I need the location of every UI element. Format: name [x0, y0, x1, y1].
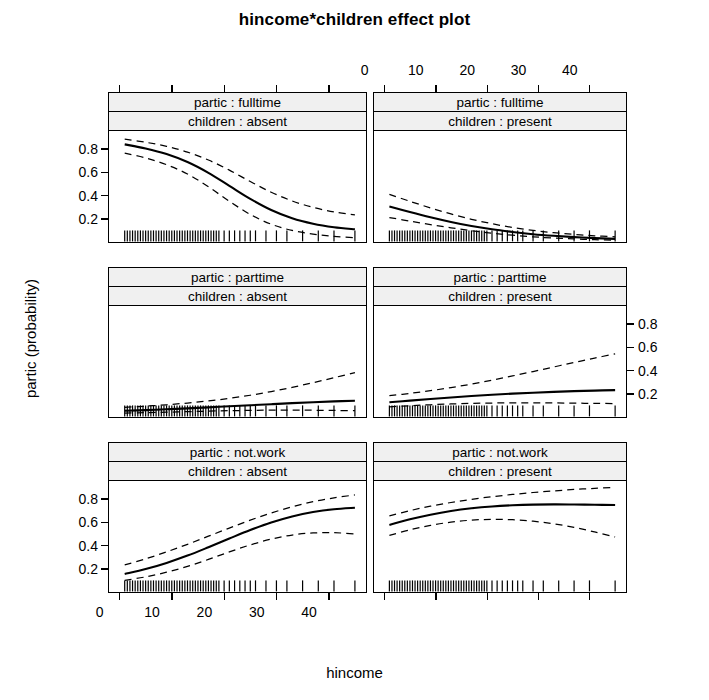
- fitted-curve: [389, 391, 615, 403]
- x-axis-tick: [538, 593, 539, 600]
- x-axis-tick-label: 30: [237, 604, 277, 620]
- x-axis-tick: [171, 593, 172, 600]
- confidence-upper: [125, 495, 355, 565]
- panel-strip-top: partic : fulltime: [108, 92, 367, 113]
- y-axis-tick: [101, 218, 108, 219]
- x-axis-tick: [119, 85, 120, 92]
- panel-strip-bottom: children : absent: [108, 111, 367, 132]
- x-axis-tick: [589, 85, 590, 92]
- rug-marks: [125, 231, 355, 242]
- plot-title: hincome*children effect plot: [0, 10, 709, 30]
- confidence-upper: [389, 354, 615, 396]
- x-axis-tick-label: 10: [132, 604, 172, 620]
- x-axis-tick: [119, 593, 120, 600]
- x-axis-tick: [171, 85, 172, 92]
- x-axis-tick: [276, 593, 277, 600]
- x-axis-tick: [224, 593, 225, 600]
- fitted-curve: [125, 145, 355, 230]
- y-axis-tick-label: 0.2: [60, 561, 98, 577]
- panel-fulltime-present: [373, 130, 627, 243]
- confidence-lower: [389, 520, 615, 538]
- x-axis-tick-label: 20: [184, 604, 224, 620]
- y-axis-tick-label: 0.8: [60, 491, 98, 507]
- panel-strip-top: partic : not.work: [373, 442, 627, 463]
- x-axis-tick: [589, 593, 590, 600]
- panel-strip-top: partic : parttime: [108, 267, 367, 288]
- y-axis-tick-label: 0.6: [60, 164, 98, 180]
- y-axis-tick-label: 0.2: [638, 386, 678, 402]
- x-axis-tick-label: 40: [550, 62, 590, 78]
- x-axis-tick: [328, 593, 329, 600]
- fitted-curve: [389, 505, 615, 526]
- x-axis-tick: [487, 593, 488, 600]
- panel-strip-bottom: children : present: [373, 461, 627, 482]
- y-axis-tick-label: 0.6: [60, 514, 98, 530]
- x-axis-tick-label: 10: [396, 62, 436, 78]
- x-axis-tick: [435, 85, 436, 92]
- panel-strip-top: partic : parttime: [373, 267, 627, 288]
- x-axis-tick: [384, 85, 385, 92]
- panel-strip-bottom: children : present: [373, 286, 627, 307]
- rug-marks: [389, 406, 615, 417]
- panel-strip-bottom: children : present: [373, 111, 627, 132]
- panel-strip-bottom: children : absent: [108, 461, 367, 482]
- y-axis-tick-label: 0.8: [638, 316, 678, 332]
- panel-strip-top: partic : fulltime: [373, 92, 627, 113]
- y-axis-tick: [101, 522, 108, 523]
- panel-parttime-absent: [108, 305, 367, 418]
- y-axis-label: partic (probability): [22, 239, 39, 439]
- effect-plot-canvas: hincome*children effect plot hincome par…: [0, 0, 709, 700]
- x-axis-tick: [538, 85, 539, 92]
- panel-parttime-present: [373, 305, 627, 418]
- x-axis-tick: [224, 85, 225, 92]
- rug-marks: [125, 581, 355, 592]
- y-axis-tick: [101, 568, 108, 569]
- y-axis-tick-label: 0.4: [60, 538, 98, 554]
- x-axis-tick: [276, 85, 277, 92]
- panel-notwork-present: [373, 480, 627, 593]
- confidence-lower: [125, 533, 355, 581]
- x-axis-tick-label: 40: [289, 604, 329, 620]
- y-axis-tick: [627, 347, 634, 348]
- panel-strip-bottom: children : absent: [108, 286, 367, 307]
- x-axis-tick: [435, 593, 436, 600]
- x-axis-tick: [384, 593, 385, 600]
- y-axis-tick: [101, 148, 108, 149]
- x-axis-tick: [487, 85, 488, 92]
- confidence-upper: [389, 488, 615, 517]
- y-axis-tick-label: 0.4: [60, 188, 98, 204]
- y-axis-tick-label: 0.8: [60, 141, 98, 157]
- confidence-upper: [125, 140, 355, 216]
- y-axis-tick-label: 0.4: [638, 363, 678, 379]
- y-axis-tick-label: 0.6: [638, 339, 678, 355]
- y-axis-tick-label: 0.2: [60, 211, 98, 227]
- fitted-curve: [125, 508, 355, 574]
- x-axis-tick: [328, 85, 329, 92]
- y-axis-tick: [627, 370, 634, 371]
- x-axis-tick-label: 0: [80, 604, 120, 620]
- panel-strip-top: partic : not.work: [108, 442, 367, 463]
- y-axis-tick: [627, 323, 634, 324]
- rug-marks: [389, 581, 615, 592]
- y-axis-tick: [101, 498, 108, 499]
- x-axis-tick-label: 20: [447, 62, 487, 78]
- panel-fulltime-absent: [108, 130, 367, 243]
- x-axis-tick-label: 0: [345, 62, 385, 78]
- x-axis-tick-label: 30: [498, 62, 538, 78]
- panel-notwork-absent: [108, 480, 367, 593]
- x-axis-label: hincome: [0, 664, 709, 681]
- y-axis-tick: [101, 545, 108, 546]
- y-axis-tick: [101, 172, 108, 173]
- y-axis-tick: [627, 393, 634, 394]
- y-axis-tick: [101, 195, 108, 196]
